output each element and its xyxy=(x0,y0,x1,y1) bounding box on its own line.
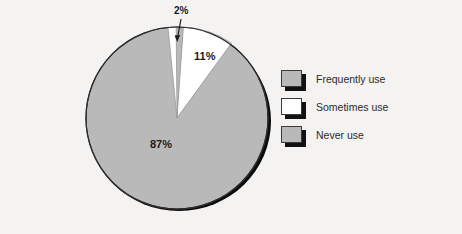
pie-chart: 2% 11% 87% xyxy=(0,0,290,234)
legend-swatch-frequently-use xyxy=(281,70,309,92)
chart-figure: 2% 11% 87% Frequently use Sometimes use … xyxy=(0,0,462,234)
chart-legend: Frequently use Sometimes use Never use xyxy=(281,70,451,154)
legend-label-sometimes-use: Sometimes use xyxy=(316,98,388,117)
pie-label-sometimes-use: 11% xyxy=(194,50,215,62)
legend-label-never-use: Never use xyxy=(316,126,364,145)
legend-label-frequently-use: Frequently use xyxy=(316,70,385,89)
legend-item-never-use: Never use xyxy=(281,126,451,154)
pie-svg xyxy=(0,0,290,234)
legend-swatch-never-use xyxy=(281,126,309,148)
pie-label-never-use: 87% xyxy=(150,138,172,150)
legend-item-sometimes-use: Sometimes use xyxy=(281,98,451,126)
legend-swatch-fill xyxy=(281,98,302,115)
legend-swatch-fill xyxy=(281,70,302,87)
legend-item-frequently-use: Frequently use xyxy=(281,70,451,98)
legend-swatch-sometimes-use xyxy=(281,98,309,120)
legend-swatch-fill xyxy=(281,126,302,143)
pie-label-frequently-use: 2% xyxy=(174,5,188,16)
